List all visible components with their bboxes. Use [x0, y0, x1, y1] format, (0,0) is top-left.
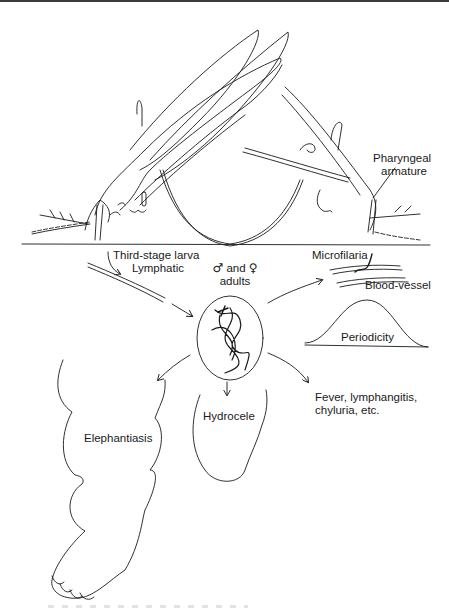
- arrow-to-adults: [172, 304, 192, 316]
- female-symbol: ♀: [249, 261, 258, 275]
- label-line-2: chyluria, etc.: [315, 404, 417, 417]
- arrow-to-fever: [268, 353, 308, 382]
- arrow-to-microfilaria: [268, 280, 322, 303]
- label-periodicity: Periodicity: [341, 331, 394, 344]
- arrow-to-elephantiasis: [158, 355, 190, 380]
- label-microfilaria: Microfilaria: [312, 249, 368, 262]
- hydrocele-outline: [193, 390, 267, 481]
- elephantiasis-leg-outline: [52, 360, 165, 598]
- label-line-1: Fever, lymphangitis,: [315, 391, 417, 404]
- lifecycle-diagram: [0, 0, 449, 614]
- left-mosquito-drawing: [32, 30, 288, 240]
- label-pharyngeal-armature: Pharyngeal armature: [373, 152, 431, 178]
- label-and: and: [226, 262, 245, 274]
- label-third-stage-larva: Third-stage larva: [113, 249, 199, 262]
- label-fever-symptoms: Fever, lymphangitis, chyluria, etc.: [315, 391, 417, 417]
- male-symbol: ♂: [212, 261, 223, 275]
- crossing-legs: [160, 170, 300, 244]
- label-blood-vessel: Blood-vessel: [365, 279, 431, 292]
- label-elephantiasis: Elephantiasis: [84, 432, 152, 445]
- label-line-2: armature: [373, 165, 431, 178]
- label-hydrocele: Hydrocele: [203, 410, 255, 423]
- label-adults: ♂ and ♀ adults: [200, 262, 270, 288]
- label-line-1: Pharyngeal: [373, 152, 431, 165]
- label-lymphatic: Lymphatic: [132, 262, 184, 275]
- cropped-caption-fragment: [48, 605, 248, 608]
- label-adults-word: adults: [200, 275, 270, 288]
